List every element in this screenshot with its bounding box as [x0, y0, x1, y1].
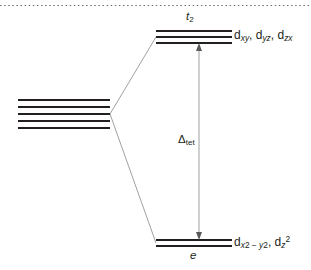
crystal-field-splitting-diagram: t2 dxy, dyz, dzx e dx2 − y2, dz2 Δtet: [0, 0, 311, 270]
delta-tet-label: Δtet: [178, 134, 195, 146]
t2-level-group: [156, 31, 232, 43]
free-ion-level-group: [18, 100, 110, 128]
t2-term-label: t2: [186, 11, 194, 23]
connector-to-t2: [110, 37, 156, 114]
e-level-group: [156, 240, 232, 246]
e-term-label: e: [190, 250, 196, 262]
delta-arrow-head-down: [196, 232, 202, 240]
t2-orbital-label: dxy, dyz, dzx: [234, 29, 293, 41]
delta-tet-arrow: [196, 43, 202, 240]
e-orbital-label: dx2 − y2, dz2: [234, 236, 290, 248]
delta-arrow-head-up: [196, 43, 202, 51]
connector-lines: [110, 37, 156, 243]
connector-to-e: [110, 114, 156, 243]
